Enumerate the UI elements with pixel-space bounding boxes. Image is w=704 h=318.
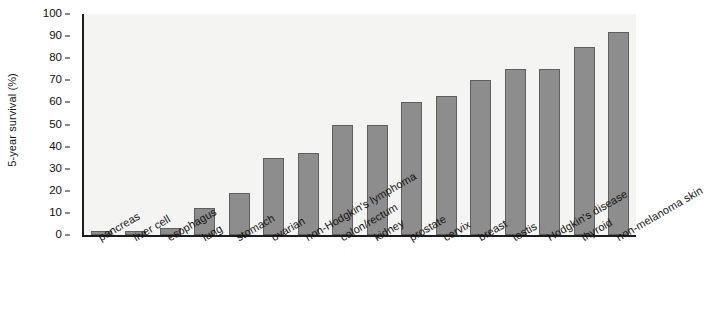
y-axis-title: 5-year survival (%) bbox=[2, 0, 22, 240]
y-tick-mark bbox=[65, 235, 70, 236]
bar-slot bbox=[533, 14, 568, 235]
y-tick-mark bbox=[65, 146, 70, 147]
y-tick-label: 0 bbox=[56, 229, 62, 241]
y-tick-label: 20 bbox=[49, 185, 62, 197]
bar-slot bbox=[257, 14, 292, 235]
y-tick-mark bbox=[65, 80, 70, 81]
y-tick-mark bbox=[65, 14, 70, 15]
bar-hodgkin-s-disease[interactable] bbox=[539, 69, 560, 235]
y-tick-label: 90 bbox=[49, 30, 62, 42]
bar-slot bbox=[429, 14, 464, 235]
bar-slot bbox=[395, 14, 430, 235]
bar-slot bbox=[188, 14, 223, 235]
y-tick-mark bbox=[65, 168, 70, 169]
y-tick-label: 70 bbox=[49, 75, 62, 87]
y-tick-mark bbox=[65, 58, 70, 59]
bar-breast[interactable] bbox=[470, 80, 491, 235]
y-tick-label: 10 bbox=[49, 207, 62, 219]
bar-testis[interactable] bbox=[505, 69, 526, 235]
y-tick-label: 50 bbox=[49, 119, 62, 131]
y-tick-label: 40 bbox=[49, 141, 62, 153]
bar-slot bbox=[84, 14, 119, 235]
y-tick-mark bbox=[65, 124, 70, 125]
y-tick-label: 60 bbox=[49, 97, 62, 109]
y-axis-ticks: 0102030405060708090100 bbox=[24, 0, 70, 245]
x-axis-labels: pancreasliver cellesophaguslungstomachov… bbox=[82, 238, 634, 318]
bar-slot bbox=[291, 14, 326, 235]
bar-slot bbox=[119, 14, 154, 235]
y-axis-title-text: 5-year survival (%) bbox=[6, 73, 18, 167]
bar-slot bbox=[464, 14, 499, 235]
y-tick-label: 80 bbox=[49, 52, 62, 64]
y-tick-mark bbox=[65, 212, 70, 213]
y-tick-label: 30 bbox=[49, 163, 62, 175]
y-tick-mark bbox=[65, 36, 70, 37]
bar-slot bbox=[498, 14, 533, 235]
y-tick-mark bbox=[65, 102, 70, 103]
y-tick-label: 100 bbox=[43, 8, 62, 20]
bar-slot bbox=[222, 14, 257, 235]
y-tick-mark bbox=[65, 190, 70, 191]
bar-slot bbox=[153, 14, 188, 235]
